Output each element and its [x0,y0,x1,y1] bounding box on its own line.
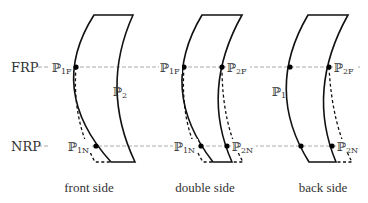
p1n-point [93,143,98,148]
caption-back-side: back side [299,180,348,195]
p2f-point [326,64,331,69]
panel-back-side: ℙ2F ℙ2N ℙ1 back side [272,15,361,195]
p1-surface-label: ℙ1 [272,85,286,100]
p2f-point [219,64,224,69]
lens-diagram: FRP NRP ℙ1F ℙ1N ℙ2 front side ℙ1F ℙ2F ℙ1… [0,0,368,203]
p2-surface-label: ℙ2 [113,85,127,100]
caption-front-side: front side [64,180,114,195]
frp-label: FRP [11,60,39,75]
caption-double-side: double side [175,180,235,195]
p2n-point [329,143,334,148]
p1f-point [181,64,186,69]
p2n-point [224,143,229,148]
nrp-label: NRP [11,139,41,154]
p1f-point [287,64,292,69]
p1n-point [298,143,303,148]
panel-front-side: ℙ1F ℙ1N ℙ2 front side [50,15,135,195]
p1n-point [198,143,203,148]
p1f-point [73,64,78,69]
panel-double-side: ℙ1F ℙ2F ℙ1N ℙ2N double side [159,15,256,195]
